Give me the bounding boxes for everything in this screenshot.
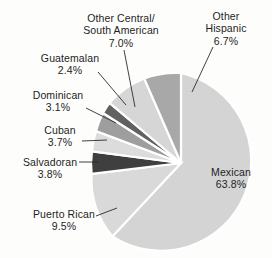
pie-label-line1: Dominican [33, 89, 84, 101]
pie-label-line2: Hispanic [205, 22, 246, 34]
pie-label-value: 2.4% [28, 64, 112, 76]
pie-label-line2: South American [83, 24, 159, 36]
pie-label-cuban: Cuban 3.7% [24, 124, 96, 149]
pie-chart: Other Central/ South American 7.0% Other… [0, 0, 272, 258]
pie-label-value: 6.7% [189, 35, 263, 47]
pie-label-dominican: Dominican 3.1% [16, 89, 100, 114]
pie-label-mexican: Mexican 63.8% [198, 166, 264, 191]
pie-label-line1: Other [213, 10, 240, 22]
pie-label-line1: Salvadoran [23, 156, 77, 168]
pie-label-value: 3.8% [8, 168, 92, 180]
pie-label-puerto-rican: Puerto Rican 9.5% [18, 208, 110, 233]
pie-label-line1: Guatemalan [41, 52, 99, 64]
pie-label-other-hispanic: Other Hispanic 6.7% [189, 10, 263, 47]
pie-label-line1: Puerto Rican [33, 208, 95, 220]
pie-label-value: 63.8% [198, 178, 264, 190]
pie-label-line1: Other Central/ [87, 12, 154, 24]
pie-label-line1: Cuban [44, 124, 75, 136]
pie-label-value: 3.1% [16, 101, 100, 113]
pie-label-value: 7.0% [63, 37, 179, 49]
pie-slices [91, 73, 251, 251]
pie-label-other-central-south-american: Other Central/ South American 7.0% [63, 12, 179, 49]
pie-label-value: 3.7% [24, 136, 96, 148]
pie-label-value: 9.5% [18, 220, 110, 232]
pie-label-salvadoran: Salvadoran 3.8% [8, 156, 92, 181]
pie-label-guatemalan: Guatemalan 2.4% [28, 52, 112, 77]
pie-label-line1: Mexican [211, 166, 251, 178]
